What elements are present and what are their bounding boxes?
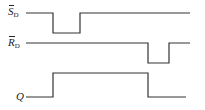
waveform-q [26, 73, 186, 97]
timing-diagram: SD RD Q [0, 0, 205, 110]
waveform-sd [26, 13, 190, 33]
waveforms [0, 0, 205, 110]
waveform-rd [26, 43, 190, 63]
